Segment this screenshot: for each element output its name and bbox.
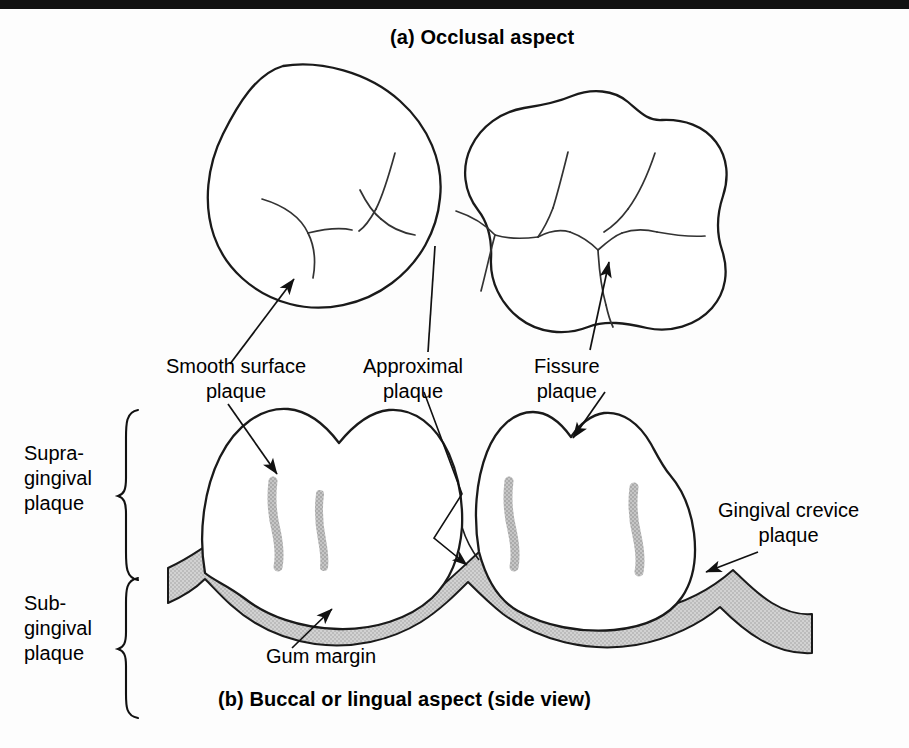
label-smooth-surface-plaque-line2: plaque xyxy=(166,379,306,404)
label-gum-margin: Gum margin xyxy=(266,644,376,669)
figure-container: (a) Occlusal aspect (b) Buccal or lingua… xyxy=(0,0,909,748)
brace-supragingival xyxy=(118,410,138,580)
caption-buccal-lingual-aspect: (b) Buccal or lingual aspect (side view) xyxy=(218,688,591,711)
label-smooth-surface-plaque: Smooth surface plaque xyxy=(166,354,306,404)
label-fissure-plaque-line1: Fissure xyxy=(534,354,600,379)
leader-gingival-crevice xyxy=(706,552,758,572)
label-fissure-plaque-line2: plaque xyxy=(534,379,600,404)
label-gingival-crevice-plaque-line2: plaque xyxy=(718,523,859,548)
label-approximal-plaque-line2: plaque xyxy=(363,379,463,404)
caption-occlusal-aspect: (a) Occlusal aspect xyxy=(390,26,574,49)
label-gingival-crevice-plaque: Gingival crevice plaque xyxy=(718,498,859,548)
occlusal-tooth-right xyxy=(456,91,727,332)
label-fissure-plaque: Fissure plaque xyxy=(534,354,600,404)
label-supragingival-plaque-line1: Supra- xyxy=(24,441,92,466)
label-gingival-crevice-plaque-line1: Gingival crevice xyxy=(718,498,859,523)
label-smooth-surface-plaque-line1: Smooth surface xyxy=(166,354,306,379)
label-supragingival-plaque-line3: plaque xyxy=(24,491,92,516)
label-approximal-plaque-line1: Approximal xyxy=(363,354,463,379)
label-subgingival-plaque-line2: gingival xyxy=(24,616,92,641)
side-tooth-left xyxy=(202,409,462,629)
label-subgingival-plaque-line3: plaque xyxy=(24,641,92,666)
brace-subgingival xyxy=(118,578,138,718)
label-approximal-plaque: Approximal plaque xyxy=(363,354,463,404)
label-subgingival-plaque: Sub- gingival plaque xyxy=(24,591,92,666)
label-subgingival-plaque-line1: Sub- xyxy=(24,591,92,616)
label-supragingival-plaque-line2: gingival xyxy=(24,466,92,491)
leader-approximal-upper xyxy=(428,246,435,352)
occlusal-tooth-left xyxy=(208,64,441,307)
label-supragingival-plaque: Supra- gingival plaque xyxy=(24,441,92,516)
side-tooth-right xyxy=(476,412,695,631)
